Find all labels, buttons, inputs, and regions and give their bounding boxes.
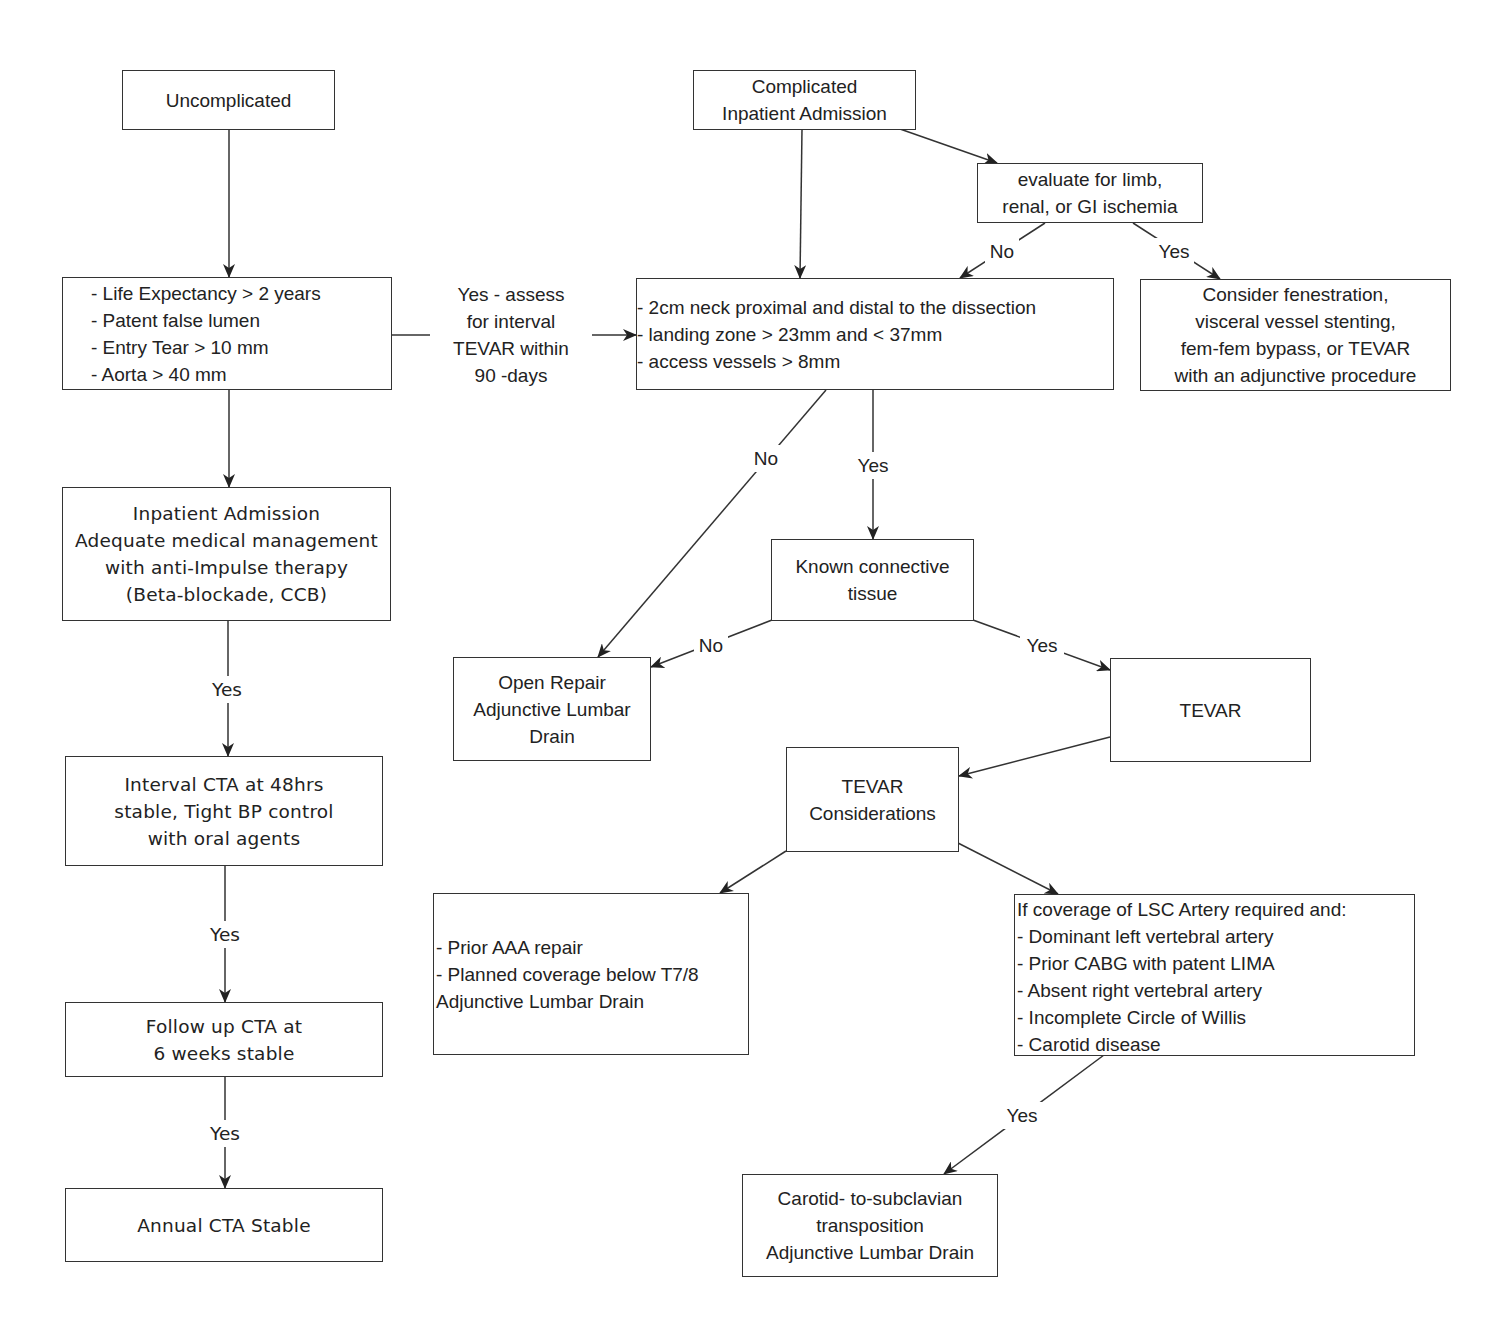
node-text: - Entry Tear > 10 mm [91,334,269,361]
edge-label-line: TEVAR within [430,335,592,362]
node-evaluate-ischemia: evaluate for limb, renal, or GI ischemia [977,163,1203,223]
node-tevar: TEVAR [1110,658,1311,762]
node-text: Carotid- to-subclavian [778,1185,963,1212]
edge-label-eval-no: No [985,238,1019,265]
node-text: - Carotid disease [1017,1031,1161,1058]
edge-label-lsc-yes: Yes [1000,1102,1044,1129]
node-uncomplicated: Uncomplicated [122,70,335,130]
edge-label-eval-yes: Yes [1154,238,1194,265]
node-lsc-coverage: If coverage of LSC Artery required and: … [1014,894,1415,1056]
node-text: Inpatient Admission [133,500,320,527]
edge-label-line: 90 -days [430,362,592,389]
node-anatomic-criteria: - 2cm neck proximal and distal to the di… [636,278,1114,390]
node-text: - Dominant left vertebral artery [1017,923,1274,950]
node-text: - Aorta > 40 mm [91,361,227,388]
node-text: TEVAR [1180,697,1242,724]
node-inpatient-admission: Inpatient Admission Adequate medical man… [62,487,391,621]
edge-considerations-to-lsc [958,843,1058,894]
node-text: Known connective [795,553,949,580]
node-text: - Prior AAA repair [436,934,583,961]
edge-label-line: for interval [430,308,592,335]
edge-considerations-to-prioraaa [720,851,786,893]
edge-label-yes-1: Yes [204,676,250,703]
node-text: 6 weeks stable [153,1040,294,1067]
node-text: TEVAR [842,773,904,800]
node-text: evaluate for limb, [1018,166,1163,193]
node-text: Adjunctive Lumbar Drain [766,1239,974,1266]
node-text: - access vessels > 8mm [637,348,840,375]
node-text: - Prior CABG with patent LIMA [1017,950,1275,977]
edge-label-line: Yes - assess [430,281,592,308]
node-text: - Planned coverage below T7/8 [436,961,699,988]
node-text: Adequate medical management [75,527,378,554]
node-text: with oral agents [148,825,301,852]
node-text: - landing zone > 23mm and < 37mm [637,321,942,348]
node-text: Considerations [809,800,936,827]
node-text: Drain [529,723,574,750]
node-text: with an adjunctive procedure [1175,362,1417,389]
node-text: (Beta-blockade, CCB) [126,581,327,608]
node-text: - 2cm neck proximal and distal to the di… [637,294,1036,321]
edge-label-yes-2: Yes [202,921,248,948]
node-open-repair: Open Repair Adjunctive Lumbar Drain [453,657,651,761]
node-text: Complicated [752,73,858,100]
node-complicated: Complicated Inpatient Admission [693,70,916,130]
node-text: Consider fenestration, [1203,281,1389,308]
node-follow-up-cta: Follow up CTA at 6 weeks stable [65,1002,383,1077]
node-text: tissue [848,580,898,607]
node-text: Open Repair [498,669,606,696]
edge-label-yes-assess: Yes - assess for interval TEVAR within 9… [430,281,592,389]
node-carotid-subclavian: Carotid- to-subclavian transposition Adj… [742,1174,998,1277]
node-text: Adjunctive Lumbar [473,696,630,723]
edge-label-ct-no: No [694,632,728,659]
node-text: - Patent false lumen [91,307,260,334]
node-text: - Life Expectancy > 2 years [91,280,321,307]
node-text: Interval CTA at 48hrs [124,771,323,798]
node-text: Adjunctive Lumbar Drain [436,988,644,1015]
edge-complicated-to-anatomic [800,129,802,278]
edge-label-anat-no: No [748,445,784,472]
node-text: If coverage of LSC Artery required and: [1017,896,1347,923]
flowchart-canvas: Yes - assess for interval TEVAR within 9… [0,0,1495,1333]
node-text: - Absent right vertebral artery [1017,977,1262,1004]
node-text: fem-fem bypass, or TEVAR [1181,335,1410,362]
edge-label-ct-yes: Yes [1020,632,1064,659]
node-text: visceral vessel stenting, [1195,308,1396,335]
node-prior-aaa: - Prior AAA repair - Planned coverage be… [433,893,749,1055]
node-text: Annual CTA Stable [137,1212,311,1239]
node-text: transposition [816,1212,924,1239]
node-interval-cta: Interval CTA at 48hrs stable, Tight BP c… [65,756,383,866]
node-text: Inpatient Admission [722,100,887,127]
edge-label-yes-3: Yes [202,1120,248,1147]
node-text: with anti-Impulse therapy [105,554,348,581]
node-text: - Incomplete Circle of Willis [1017,1004,1246,1031]
edge-tevar-to-considerations [959,737,1110,776]
node-tevar-considerations: TEVAR Considerations [786,747,959,852]
node-known-connective: Known connective tissue [771,539,974,621]
edge-label-anat-yes: Yes [851,452,895,479]
node-consider-fenestration: Consider fenestration, visceral vessel s… [1140,279,1451,391]
node-text: Follow up CTA at [146,1013,302,1040]
node-text: stable, Tight BP control [114,798,333,825]
node-text: Uncomplicated [166,87,292,114]
edge-complicated-to-evaluate [900,129,997,163]
node-text: renal, or GI ischemia [1002,193,1177,220]
node-criteria-left: - Life Expectancy > 2 years - Patent fal… [62,277,392,390]
node-annual-cta: Annual CTA Stable [65,1188,383,1262]
